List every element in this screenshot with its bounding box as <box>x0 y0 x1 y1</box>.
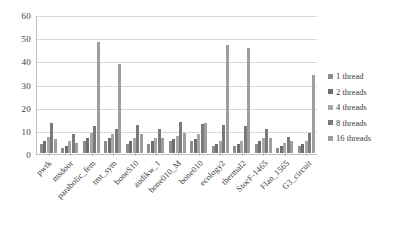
x-axis-label-cell: G3_circuit <box>295 156 317 231</box>
bar <box>118 64 121 153</box>
legend-swatch-icon <box>328 89 333 94</box>
bar <box>161 138 164 153</box>
bar-chart: 0102030405060 pwtkmsdoorparabolic_femtmt… <box>0 0 397 231</box>
x-axis-label-cell: boneS10 <box>122 156 144 231</box>
legend-label: 4 threads <box>336 102 367 112</box>
bar-group <box>231 16 252 153</box>
bar-groups <box>38 16 317 153</box>
bar-group <box>210 16 231 153</box>
legend-item[interactable]: 1 thread <box>328 71 397 81</box>
x-axis-label-cell: Flan_1565 <box>274 156 296 231</box>
bar <box>247 48 250 153</box>
bar <box>183 133 186 153</box>
legend-item[interactable]: 8 threads <box>328 118 397 128</box>
bar-group <box>124 16 145 153</box>
x-axis-label-cell: ecology2 <box>209 156 231 231</box>
x-axis-label-cell: parabolic_fem <box>79 156 101 231</box>
chart-legend: 1 thread2 threads4 threads8 threads16 th… <box>328 71 397 143</box>
bar-group <box>38 16 59 153</box>
y-axis-tick-label: 60 <box>22 11 36 21</box>
x-axis-label-cell: bone010 <box>187 156 209 231</box>
bar-group <box>296 16 317 153</box>
bar-group <box>167 16 188 153</box>
y-axis-tick-label: 30 <box>22 81 36 91</box>
bar <box>54 139 57 153</box>
bar <box>312 75 315 153</box>
legend-item[interactable]: 4 threads <box>328 102 397 112</box>
x-axis-label-cell: audikw_1 <box>144 156 166 231</box>
y-axis-tick-label: 10 <box>22 127 36 137</box>
bar-group <box>102 16 123 153</box>
x-axis-label-cell: bone010_M <box>166 156 188 231</box>
legend-label: 16 threads <box>336 133 371 143</box>
legend-item[interactable]: 2 threads <box>328 87 397 97</box>
legend-swatch-icon <box>328 105 333 110</box>
bar-group <box>59 16 80 153</box>
bar <box>269 138 272 153</box>
x-axis-label-cell: tmt_sym <box>101 156 123 231</box>
legend-swatch-icon <box>328 74 333 79</box>
bar <box>140 134 143 153</box>
x-axis-label-cell: StocF-1465 <box>252 156 274 231</box>
x-axis-labels: pwtkmsdoorparabolic_femtmt_symboneS10aud… <box>36 156 317 231</box>
bar-group <box>253 16 274 153</box>
bar-group <box>274 16 295 153</box>
legend-label: 8 threads <box>336 118 367 128</box>
bar-group <box>81 16 102 153</box>
bar <box>75 143 78 153</box>
legend-swatch-icon <box>328 120 333 125</box>
legend-swatch-icon <box>328 136 333 141</box>
y-axis-tick-label: 50 <box>22 34 36 44</box>
legend-label: 2 threads <box>336 87 367 97</box>
y-axis-tick-label: 40 <box>22 57 36 67</box>
legend-item[interactable]: 16 threads <box>328 133 397 143</box>
plot-area <box>36 16 317 155</box>
bar <box>290 141 293 153</box>
bar <box>226 45 229 153</box>
bar-group <box>145 16 166 153</box>
bar <box>97 42 100 153</box>
legend-label: 1 thread <box>336 71 364 81</box>
plot-wrapper: 0102030405060 <box>36 16 317 155</box>
y-axis-tick-label: 20 <box>22 104 36 114</box>
bar-group <box>188 16 209 153</box>
y-axis-tick-label: 0 <box>26 150 36 160</box>
bar <box>204 123 207 153</box>
